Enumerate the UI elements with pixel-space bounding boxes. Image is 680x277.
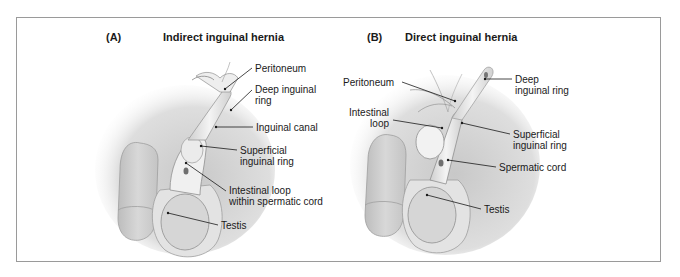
label-deep-inguinal-ring-b: Deep inguinal ring: [515, 74, 569, 96]
label-deep-inguinal-ring-a: Deep inguinal ring: [255, 84, 316, 106]
panel-a-title: Indirect inguinal hernia: [163, 31, 284, 43]
panel-a-letter: (A): [106, 31, 121, 43]
anatomy-illustration: [0, 0, 680, 277]
label-peritoneum-a: Peritoneum: [255, 63, 306, 74]
panel-b-letter: (B): [367, 31, 382, 43]
label-intestinal-loop-b: Intestinal loop: [340, 107, 389, 129]
panel-b-title: Direct inguinal hernia: [405, 31, 517, 43]
label-inguinal-canal-a: Inguinal canal: [256, 122, 318, 133]
label-superficial-inguinal-ring-b: Superficial inguinal ring: [513, 129, 567, 151]
label-spermatic-cord: Spermatic cord: [499, 162, 566, 173]
label-testis-a: Testis: [221, 220, 247, 231]
label-superficial-inguinal-ring-a: Superficial inguinal ring: [240, 145, 294, 167]
label-peritoneum-b: Peritoneum: [343, 77, 394, 88]
label-testis-b: Testis: [484, 204, 510, 215]
label-intestinal-loop-within-spermatic-cord: Intestinal loop within spermatic cord: [229, 185, 323, 207]
